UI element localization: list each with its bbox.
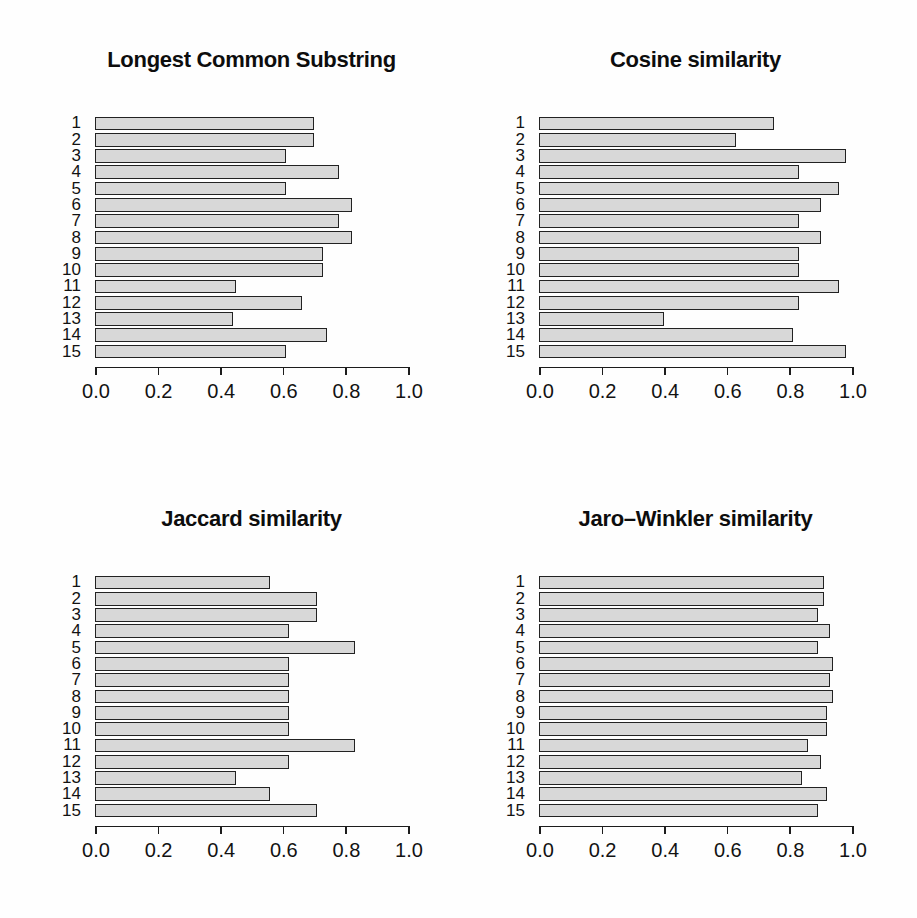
bar	[95, 608, 317, 622]
x-axis-tick	[158, 367, 160, 375]
x-axis-tick	[95, 826, 97, 834]
bar	[539, 247, 799, 261]
x-axis-tick-label: 0.8	[316, 380, 376, 403]
bar	[95, 804, 317, 818]
y-axis-label: 15	[479, 802, 525, 820]
bar	[539, 345, 846, 359]
chart-longest-common-substring: Longest Common Substring 123456789101112…	[0, 0, 458, 459]
bar	[95, 722, 289, 736]
x-axis-tick	[539, 367, 541, 375]
bar	[539, 165, 799, 179]
chart-title: Longest Common Substring	[107, 47, 396, 73]
bar	[539, 657, 833, 671]
bar	[95, 787, 270, 801]
bar	[95, 296, 302, 310]
bar	[539, 312, 664, 326]
bar	[539, 263, 799, 277]
bar	[539, 296, 799, 310]
x-axis-tick	[158, 826, 160, 834]
chart-title: Cosine similarity	[610, 47, 781, 73]
x-axis-tick	[664, 367, 666, 375]
x-axis-tick	[220, 367, 222, 375]
bar	[95, 739, 355, 753]
bar	[539, 214, 799, 228]
x-axis	[95, 826, 410, 828]
bar	[539, 133, 736, 147]
x-axis-tick	[408, 826, 410, 834]
x-axis-tick-label: 1.0	[379, 839, 439, 862]
x-axis-tick	[852, 367, 854, 375]
chart-jaro-winkler-similarity: Jaro–Winkler similarity 1234567891011121…	[459, 459, 917, 918]
x-axis-tick-label: 1.0	[823, 380, 883, 403]
x-axis-tick-label: 0.2	[129, 380, 189, 403]
x-axis-tick	[852, 826, 854, 834]
x-axis-tick	[602, 367, 604, 375]
x-axis-tick	[283, 826, 285, 834]
bar	[95, 673, 289, 687]
chart-title: Jaccard similarity	[161, 506, 342, 532]
x-axis	[539, 826, 854, 828]
bar	[95, 690, 289, 704]
bar	[539, 182, 839, 196]
x-axis-tick-label: 0.2	[573, 839, 633, 862]
x-axis-tick-label: 0.8	[316, 839, 376, 862]
bar	[539, 592, 824, 606]
bar	[95, 624, 289, 638]
bar	[95, 182, 286, 196]
bar	[95, 133, 314, 147]
y-axis-label: 15	[479, 343, 525, 361]
bar	[539, 673, 830, 687]
bar	[539, 771, 802, 785]
bar	[539, 149, 846, 163]
x-axis-tick	[345, 826, 347, 834]
x-axis-tick	[283, 367, 285, 375]
bar	[95, 263, 323, 277]
bar	[95, 328, 327, 342]
bar	[539, 280, 839, 294]
x-axis-tick	[727, 826, 729, 834]
x-axis-tick-label: 0.4	[191, 380, 251, 403]
x-axis-tick-label: 0.8	[760, 380, 820, 403]
bar	[539, 804, 818, 818]
bar	[539, 231, 821, 245]
bar	[95, 117, 314, 131]
chart-cosine-similarity: Cosine similarity 1234567891011121314150…	[459, 0, 917, 459]
bar	[95, 592, 317, 606]
x-axis-tick-label: 1.0	[823, 839, 883, 862]
bar	[539, 608, 818, 622]
bar	[539, 722, 827, 736]
x-axis-tick	[727, 367, 729, 375]
x-axis-tick-label: 0.4	[191, 839, 251, 862]
x-axis-tick-label: 0.0	[66, 380, 126, 403]
x-axis-tick-label: 0.6	[254, 839, 314, 862]
x-axis-tick-label: 0.2	[573, 380, 633, 403]
x-axis-tick	[345, 367, 347, 375]
x-axis-tick	[789, 367, 791, 375]
bar	[95, 345, 286, 359]
x-axis-tick	[539, 826, 541, 834]
chart-title: Jaro–Winkler similarity	[579, 506, 813, 532]
x-axis-tick-label: 0.0	[510, 839, 570, 862]
bar	[539, 787, 827, 801]
x-axis-tick	[664, 826, 666, 834]
bar	[95, 231, 352, 245]
bar	[95, 312, 233, 326]
y-axis-label: 15	[35, 802, 81, 820]
x-axis-tick-label: 0.4	[635, 839, 695, 862]
figure-panel: Longest Common Substring 123456789101112…	[0, 0, 917, 918]
bar	[539, 576, 824, 590]
x-axis-tick	[220, 826, 222, 834]
x-axis-tick-label: 1.0	[379, 380, 439, 403]
bar	[95, 280, 236, 294]
x-axis-tick-label: 0.0	[510, 380, 570, 403]
x-axis-tick-label: 0.6	[698, 380, 758, 403]
bar	[95, 706, 289, 720]
bar	[95, 771, 236, 785]
bar	[95, 755, 289, 769]
x-axis	[95, 367, 410, 369]
bar	[95, 165, 339, 179]
x-axis-tick	[789, 826, 791, 834]
bar	[95, 641, 355, 655]
bar	[539, 706, 827, 720]
x-axis-tick-label: 0.8	[760, 839, 820, 862]
